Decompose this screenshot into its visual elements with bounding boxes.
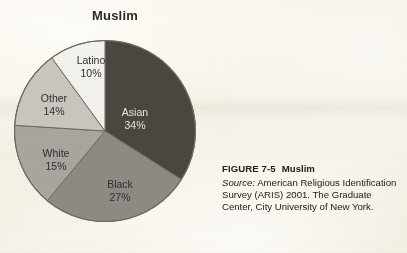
figure-caption-source: Source: American Religious Identificatio… — [222, 177, 404, 214]
pie-chart-svg — [0, 0, 215, 253]
figure-title: Muslim — [282, 163, 315, 174]
source-label: Source: — [222, 177, 255, 188]
pie-slices — [15, 41, 196, 222]
figure-caption-heading: FIGURE 7-5Muslim — [222, 163, 404, 175]
figure-page: Muslim Asian 34% Black 27% White 15% Oth… — [0, 0, 407, 253]
figure-number: FIGURE 7-5 — [222, 163, 276, 174]
figure-caption: FIGURE 7-5Muslim Source: American Religi… — [222, 163, 404, 214]
pie-chart: Asian 34% Black 27% White 15% Other 14% … — [0, 0, 215, 253]
